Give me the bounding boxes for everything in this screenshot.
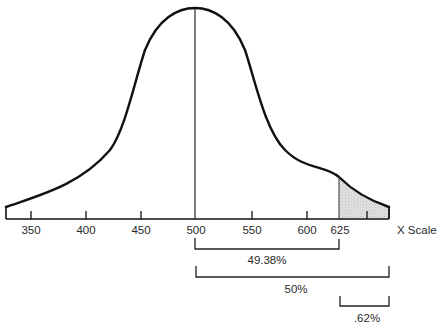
bracket-0-62-percent [340,296,389,306]
bracket-label-0-62: .62% [354,313,380,325]
x-axis-ticks [31,211,367,219]
bracket-49-38-percent [195,238,339,249]
tick-label-400: 400 [76,225,95,237]
bell-curve [6,8,389,207]
x-scale-label: X Scale [397,225,437,237]
bracket-label-50: 50% [284,284,307,296]
tick-label-625: 625 [330,225,349,237]
bracket-50-percent [196,266,389,277]
tick-label-550: 550 [242,225,261,237]
bracket-label-49-38: 49.38% [247,255,286,267]
tick-label-350: 350 [21,225,40,237]
tick-label-500: 500 [186,225,205,237]
tick-label-600: 600 [297,225,316,237]
tick-label-450: 450 [131,225,150,237]
normal-curve-diagram [0,0,438,332]
